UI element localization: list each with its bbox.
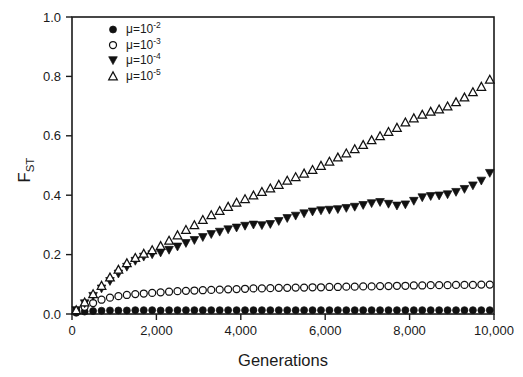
data-point: [461, 307, 468, 314]
data-point: [90, 308, 97, 315]
data-point: [207, 211, 216, 219]
data-point: [258, 222, 267, 230]
data-point: [284, 307, 291, 314]
data-point: [426, 193, 435, 201]
data-point: [342, 149, 351, 157]
legend-item-mu=10-3: μ=10-3: [110, 36, 162, 52]
data-point: [207, 231, 216, 239]
data-point: [275, 284, 282, 291]
data-point: [393, 123, 402, 131]
data-point: [351, 307, 358, 314]
data-point: [359, 141, 368, 149]
y-tick-label-1: 0.2: [43, 247, 61, 262]
data-point: [208, 286, 215, 293]
legend-label: μ=10-3: [126, 36, 161, 52]
data-point: [232, 198, 241, 206]
legend-item-mu=10-5: μ=10-5: [109, 67, 161, 83]
data-point: [208, 307, 215, 314]
data-point: [283, 215, 292, 223]
data-point: [401, 118, 410, 126]
fst-generations-scatter-plot: 0.00.20.40.60.81.0 02,0004,0006,0008,000…: [0, 0, 523, 377]
data-point: [190, 237, 199, 245]
data-point: [342, 204, 351, 212]
data-point: [191, 287, 198, 294]
data-point: [250, 285, 257, 292]
data-point: [477, 177, 486, 185]
data-point: [114, 265, 123, 273]
data-point: [444, 307, 451, 314]
data-point: [426, 107, 435, 115]
x-tick-label-4: 8,000: [393, 323, 426, 338]
y-axis-title-subscript: ST: [24, 158, 36, 173]
data-point: [284, 284, 291, 291]
data-point: [343, 307, 350, 314]
data-point: [115, 293, 122, 300]
x-tick-label-5: 10,000: [474, 323, 514, 338]
data-point: [317, 161, 326, 169]
data-point: [98, 307, 105, 314]
data-point: [486, 307, 493, 314]
data-point: [393, 282, 400, 289]
x-tick-label-0: 0: [68, 323, 75, 338]
data-point: [123, 259, 132, 267]
data-point: [224, 226, 233, 234]
legend-label: μ=10-5: [126, 67, 161, 83]
data-point: [360, 307, 367, 314]
data-point: [461, 281, 468, 288]
data-point: [384, 200, 393, 208]
data-point: [267, 307, 274, 314]
data-point: [377, 283, 384, 290]
y-axis-ticks: [66, 17, 72, 314]
data-point: [309, 307, 316, 314]
data-point: [225, 307, 232, 314]
data-point: [350, 203, 359, 211]
data-point: [410, 197, 419, 205]
data-point: [148, 246, 157, 254]
data-point: [233, 286, 240, 293]
data-point: [393, 307, 400, 314]
data-point: [453, 307, 460, 314]
x-tick-label-3: 6,000: [309, 323, 342, 338]
data-point: [326, 307, 333, 314]
data-point: [486, 281, 493, 288]
data-point: [444, 282, 451, 289]
data-point: [156, 249, 165, 257]
data-point: [325, 206, 334, 214]
data-point: [292, 284, 299, 291]
data-point: [368, 307, 375, 314]
data-point: [241, 195, 250, 203]
data-point: [326, 283, 333, 290]
data-point: [182, 287, 189, 294]
data-point: [115, 307, 122, 314]
data-point: [242, 285, 249, 292]
data-point: [418, 110, 427, 118]
data-point: [199, 234, 208, 242]
data-point: [174, 307, 181, 314]
data-point: [173, 231, 182, 239]
data-point: [215, 207, 224, 215]
data-point: [199, 307, 206, 314]
data-point: [258, 285, 265, 292]
legend-item-mu=10-4: μ=10-4: [109, 51, 161, 67]
data-point: [419, 307, 426, 314]
data-point: [149, 289, 156, 296]
data-point: [359, 202, 368, 210]
data-point: [140, 290, 147, 297]
data-point: [317, 284, 324, 291]
data-point: [165, 236, 174, 244]
data-point: [351, 283, 358, 290]
data-point: [478, 307, 485, 314]
data-point: [225, 286, 232, 293]
data-point: [166, 288, 173, 295]
data-point: [283, 176, 292, 184]
data-point: [410, 307, 417, 314]
y-tick-label-0: 0.0: [43, 307, 61, 322]
data-point: [123, 307, 130, 314]
y-axis-tick-labels: 0.00.20.40.60.81.0: [43, 10, 61, 322]
data-point: [199, 287, 206, 294]
data-point: [385, 307, 392, 314]
data-point: [360, 283, 367, 290]
data-point: [106, 273, 115, 281]
legend-marker-filled-circle-icon: [110, 26, 117, 33]
data-point: [469, 307, 476, 314]
